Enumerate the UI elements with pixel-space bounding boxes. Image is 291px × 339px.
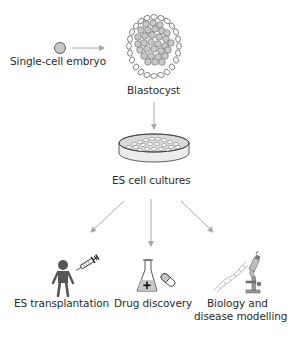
arrow-cultures-to-transplantation bbox=[91, 201, 124, 232]
person-syringe-icon bbox=[53, 254, 99, 296]
flask-pill-icon bbox=[137, 260, 176, 291]
label-es-cell-cultures: ES cell cultures bbox=[112, 174, 191, 187]
diagram-canvas bbox=[0, 0, 291, 339]
dna-microscope-icon bbox=[214, 251, 261, 293]
arrow-cultures-to-biology bbox=[181, 201, 213, 232]
label-biology-line1: Biology and bbox=[207, 297, 268, 310]
single-cell-icon bbox=[55, 43, 66, 54]
label-blastocyst: Blastocyst bbox=[127, 84, 180, 97]
label-biology-line2: disease modelling bbox=[194, 310, 287, 323]
label-drug-discovery: Drug discovery bbox=[114, 297, 192, 310]
petri-dish-icon bbox=[119, 134, 189, 162]
label-single-cell-embryo: Single-cell embryo bbox=[10, 55, 106, 68]
label-es-transplantation: ES transplantation bbox=[14, 297, 109, 310]
blastocyst-icon bbox=[127, 15, 182, 79]
